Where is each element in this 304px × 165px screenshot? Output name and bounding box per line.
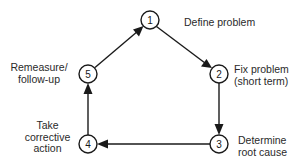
label-line: Take [20, 120, 75, 132]
node-number: 4 [85, 139, 91, 150]
label-line: Fix problem [234, 64, 289, 76]
node-number: 5 [85, 69, 91, 80]
node-1: 1 [141, 11, 159, 29]
label-line: Determine [238, 135, 287, 147]
arrowhead-icon [97, 140, 108, 149]
node-4: 4 [79, 135, 97, 153]
label-define-problem: Define problem [184, 17, 255, 29]
edge-1-to-2 [157, 27, 208, 65]
node-number: 2 [216, 69, 222, 80]
label-line: Remeasure/ [9, 62, 69, 74]
label-remeasure-follow-up: Remeasure/ follow-up [9, 62, 69, 85]
node-3: 3 [210, 135, 228, 153]
label-line: action [20, 143, 75, 155]
label-take-corrective-action: Take corrective action [20, 120, 75, 155]
label-line: root cause [238, 147, 287, 159]
arrowhead-icon [133, 26, 144, 37]
label-line: (short term) [234, 76, 289, 88]
edge-5-to-1 [95, 31, 138, 68]
arrowhead-icon [201, 59, 212, 68]
label-fix-problem: Fix problem (short term) [234, 64, 289, 87]
arrowhead-icon [215, 124, 224, 135]
node-number: 3 [216, 139, 222, 150]
label-line: Define problem [184, 17, 255, 29]
node-2: 2 [210, 65, 228, 83]
edges [84, 26, 224, 149]
label-line: follow-up [9, 74, 69, 86]
arrowhead-icon [84, 83, 93, 94]
node-5: 5 [79, 65, 97, 83]
label-determine-root-cause: Determine root cause [238, 135, 287, 158]
node-number: 1 [147, 15, 153, 26]
